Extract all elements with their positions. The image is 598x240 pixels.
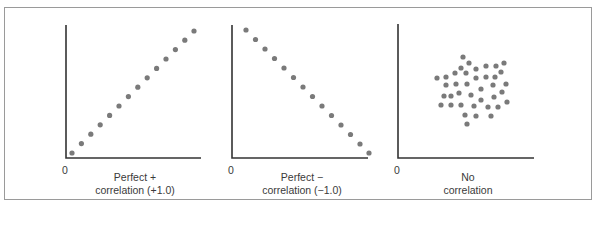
data-point bbox=[492, 74, 497, 79]
data-point bbox=[191, 28, 196, 33]
data-point bbox=[473, 113, 478, 118]
panel-1-caption-line-1: Perfect + bbox=[60, 171, 210, 184]
data-point bbox=[466, 60, 471, 65]
data-point bbox=[478, 86, 483, 91]
data-point bbox=[458, 65, 463, 70]
data-point bbox=[456, 90, 461, 95]
data-point bbox=[145, 75, 150, 80]
panel-3-caption-line-2: correlation bbox=[393, 184, 543, 197]
data-point bbox=[154, 66, 159, 71]
data-point bbox=[319, 103, 324, 108]
panel-3-caption: No correlation bbox=[393, 171, 543, 197]
panel-2-caption-line-2: correlation (−1.0) bbox=[227, 184, 377, 197]
data-point bbox=[460, 54, 465, 59]
data-point bbox=[366, 150, 371, 155]
data-point bbox=[473, 75, 478, 80]
data-point bbox=[471, 103, 476, 108]
data-point bbox=[464, 81, 469, 86]
data-point bbox=[478, 97, 483, 102]
data-point bbox=[243, 27, 248, 32]
data-point bbox=[441, 93, 446, 98]
data-point bbox=[498, 69, 503, 74]
panel-2-axes bbox=[232, 25, 368, 158]
data-point bbox=[495, 104, 500, 109]
data-point bbox=[272, 56, 277, 61]
data-point bbox=[253, 37, 258, 42]
data-point bbox=[300, 84, 305, 89]
data-point bbox=[458, 102, 463, 107]
data-point bbox=[291, 75, 296, 80]
panel-2-caption-line-1: Perfect − bbox=[227, 171, 377, 184]
data-point bbox=[473, 66, 478, 71]
data-point bbox=[483, 63, 488, 68]
data-point bbox=[503, 81, 508, 86]
data-point bbox=[485, 104, 490, 109]
data-point bbox=[182, 38, 187, 43]
data-point bbox=[69, 150, 74, 155]
data-point bbox=[501, 60, 506, 65]
panel-3-caption-line-1: No bbox=[393, 171, 543, 184]
data-point bbox=[173, 47, 178, 52]
data-point bbox=[504, 99, 509, 104]
data-point bbox=[357, 141, 362, 146]
data-point bbox=[490, 82, 495, 87]
data-point bbox=[88, 132, 93, 137]
data-point bbox=[448, 93, 453, 98]
panel-2 bbox=[232, 25, 372, 158]
panel-3-axes bbox=[398, 24, 534, 158]
data-point bbox=[499, 89, 504, 94]
data-point bbox=[443, 74, 448, 79]
panel-3 bbox=[398, 24, 534, 158]
data-point bbox=[116, 103, 121, 108]
data-point bbox=[126, 94, 131, 99]
panel-1-caption: Perfect + correlation (+1.0) bbox=[60, 171, 210, 197]
data-point bbox=[163, 56, 168, 61]
data-point bbox=[281, 65, 286, 70]
data-point bbox=[338, 122, 343, 127]
data-point bbox=[98, 122, 103, 127]
data-point bbox=[488, 113, 493, 118]
data-point bbox=[448, 102, 453, 107]
data-point bbox=[348, 132, 353, 137]
data-point bbox=[453, 81, 458, 86]
panel-1 bbox=[66, 25, 201, 158]
panel-1-caption-line-2: correlation (+1.0) bbox=[60, 184, 210, 197]
data-point bbox=[262, 46, 267, 51]
data-point bbox=[468, 92, 473, 97]
data-point bbox=[493, 63, 498, 68]
data-point bbox=[329, 113, 334, 118]
data-point bbox=[107, 113, 112, 118]
data-point bbox=[483, 74, 488, 79]
data-point bbox=[135, 85, 140, 90]
panel-2-caption: Perfect − correlation (−1.0) bbox=[227, 171, 377, 197]
panel-1-axes bbox=[66, 25, 201, 158]
data-point bbox=[491, 94, 496, 99]
data-point bbox=[310, 94, 315, 99]
data-point bbox=[434, 75, 439, 80]
data-point bbox=[464, 121, 469, 126]
data-point bbox=[462, 112, 467, 117]
data-point bbox=[463, 70, 468, 75]
data-point bbox=[452, 70, 457, 75]
data-point bbox=[79, 141, 84, 146]
data-point bbox=[443, 82, 448, 87]
data-point bbox=[438, 102, 443, 107]
